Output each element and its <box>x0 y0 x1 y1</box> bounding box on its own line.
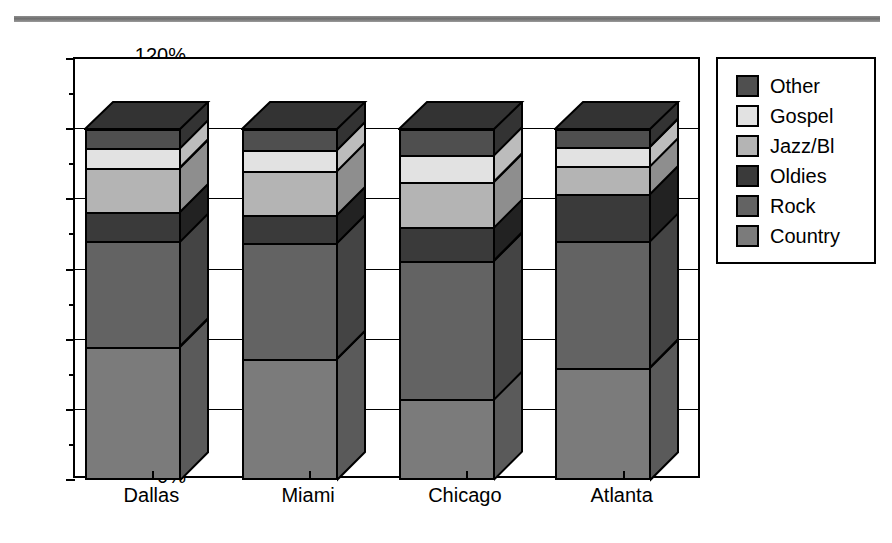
y-axis-minor-tick <box>69 233 75 235</box>
bar-segment <box>85 168 181 212</box>
legend-swatch-icon <box>736 105 759 127</box>
x-axis-tick <box>152 471 154 480</box>
header-rule <box>14 16 880 22</box>
bar-segment <box>242 243 338 359</box>
legend-swatch-icon <box>736 225 759 247</box>
bar-segment <box>85 347 181 480</box>
y-axis-minor-tick <box>69 93 75 95</box>
legend-item-label: Jazz/Bl <box>770 136 834 156</box>
bar-top-face <box>554 101 681 132</box>
y-axis-tick <box>66 198 75 200</box>
legend-swatch-icon <box>736 75 759 97</box>
y-axis-tick <box>66 339 75 341</box>
bar-segment <box>399 182 495 228</box>
legend-item-label: Oldies <box>770 166 827 186</box>
legend-item-label: Other <box>770 76 820 96</box>
legend-item[interactable]: Gospel <box>736 101 874 131</box>
bar-segment <box>555 194 651 241</box>
chart-legend: OtherGospelJazz/BlOldiesRockCountry <box>716 57 876 264</box>
bar-segment <box>555 368 651 480</box>
x-axis-label-atlanta: Atlanta <box>543 484 700 507</box>
legend-item-label: Country <box>770 226 840 246</box>
legend-swatch-icon <box>736 135 759 157</box>
legend-item[interactable]: Oldies <box>736 161 874 191</box>
bar-top-face <box>241 101 368 132</box>
bar-top-face <box>84 101 211 132</box>
x-axis-label-dallas: Dallas <box>73 484 230 507</box>
x-axis-tick <box>466 471 468 480</box>
y-axis-tick <box>66 269 75 271</box>
y-axis-minor-tick <box>69 163 75 165</box>
bar-segment <box>399 155 495 181</box>
bar-segment <box>242 215 338 243</box>
legend-swatch-icon <box>736 165 759 187</box>
bar-segment <box>242 129 338 150</box>
bar-segment <box>399 261 495 400</box>
bar-segment <box>399 129 495 155</box>
y-axis-minor-tick <box>69 374 75 376</box>
legend-item[interactable]: Rock <box>736 191 874 221</box>
bar-segment <box>85 148 181 167</box>
x-axis-label-miami: Miami <box>230 484 387 507</box>
y-axis-tick <box>66 58 75 60</box>
y-axis-minor-tick <box>69 304 75 306</box>
legend-item[interactable]: Country <box>736 221 874 251</box>
bar-segment <box>242 150 338 171</box>
y-axis-tick <box>66 479 75 481</box>
bar-segment <box>555 241 651 367</box>
bar-segment <box>555 147 651 166</box>
legend-item-label: Gospel <box>770 106 833 126</box>
legend-item[interactable]: Other <box>736 71 874 101</box>
bar-segment <box>85 212 181 242</box>
bar-top-face <box>398 101 525 132</box>
bar-segment <box>555 129 651 147</box>
x-axis-label-chicago: Chicago <box>387 484 544 507</box>
bar-segment <box>555 166 651 194</box>
bar-segment <box>242 171 338 215</box>
legend-item[interactable]: Jazz/Bl <box>736 131 874 161</box>
y-axis-tick <box>66 409 75 411</box>
x-axis-tick <box>623 471 625 480</box>
y-axis-minor-tick <box>69 444 75 446</box>
bar-segment <box>85 241 181 346</box>
y-axis-tick <box>66 128 75 130</box>
bar-segment <box>399 399 495 480</box>
legend-item-label: Rock <box>770 196 816 216</box>
x-axis-tick <box>309 471 311 480</box>
plot-area <box>73 57 700 478</box>
bar-segment <box>242 359 338 480</box>
bar-segment <box>85 129 181 148</box>
legend-swatch-icon <box>736 195 759 217</box>
bar-segment <box>399 227 495 260</box>
chart-page: 0%20%40%60%80%100%120% DallasMiamiChicag… <box>0 0 892 543</box>
